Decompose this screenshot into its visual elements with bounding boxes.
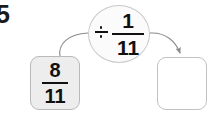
operator-numerator: 1 [122,10,134,31]
operand-numerator: 8 [49,60,60,80]
operator-denominator: 11 [117,37,139,58]
division-bottom-dot [100,35,103,38]
division-top-dot [100,26,103,29]
operator-fraction: 1 11 [110,8,146,60]
output-arrow-path [150,33,180,53]
operand-fraction-bar [42,82,68,84]
input-arrow-path [60,33,88,56]
answer-box[interactable] [157,57,207,110]
division-icon [93,22,109,42]
division-bar [95,31,108,33]
worksheet-problem-canvas: 5 8 11 1 11 [0,0,210,116]
operator-fraction-bar [112,33,144,35]
operand-denominator: 11 [44,86,65,106]
problem-number: 5 [0,0,18,28]
operand-fraction: 8 11 [30,56,80,110]
